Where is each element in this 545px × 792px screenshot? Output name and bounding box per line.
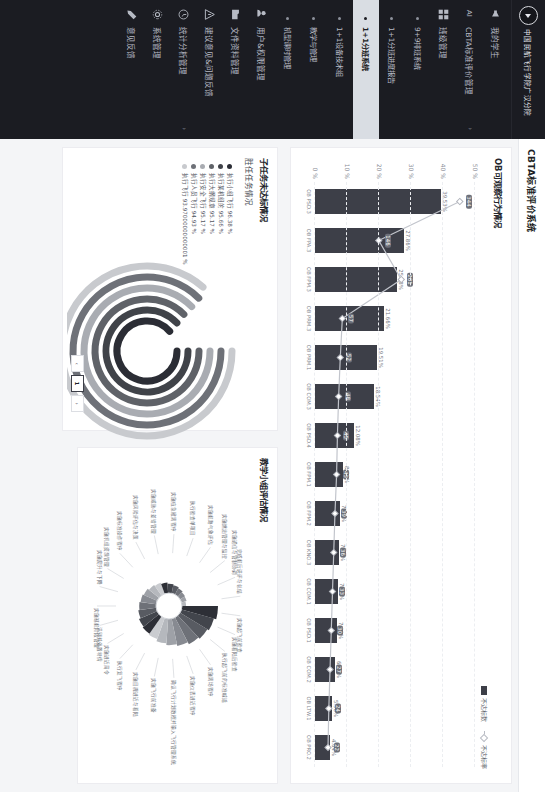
line-point-label: 57 <box>348 313 354 324</box>
rose-label: 实施进近简令 <box>104 645 110 675</box>
plane-circle-icon <box>519 6 538 25</box>
bullet-icon <box>391 17 394 20</box>
current-page[interactable]: 1 <box>71 375 84 392</box>
rose-leader-line <box>154 536 158 555</box>
sidebar-item-opinion-feedback[interactable]: 意见反馈 <box>119 0 145 139</box>
lower-row: 子任务未达标情况 胜任任务情况 执行小组飞行 96.38 %执行某机组的 95.… <box>56 139 284 792</box>
gridline <box>474 182 475 767</box>
rose-leader-line <box>218 627 235 635</box>
rose-leader-line <box>120 553 133 567</box>
prev-page-button[interactable]: ‹ <box>71 355 84 372</box>
grid-icon <box>439 9 450 20</box>
bullet-icon <box>313 17 316 20</box>
rose-label: 实施仪表进近程序 <box>190 676 196 716</box>
rose-label: 实施飞行前准备 <box>151 678 157 713</box>
sidebar-item-label: 我的学生 <box>491 27 502 59</box>
sidebar-item-class-management[interactable]: 班级管理 <box>431 0 457 139</box>
sidebar-item-aircraft-hours[interactable]: 机型课时管理 <box>275 0 301 139</box>
rose-leader-line <box>173 659 174 678</box>
rose-leader-line <box>200 547 211 563</box>
rose-leader-line <box>154 658 158 677</box>
panel-ob-behaviour: OB可观察行为情况 不达标数 不达标率 0 %10 %20 %30 %40 %5… <box>290 147 512 784</box>
rose-label: 实施威胁与差错管理 <box>151 456 157 534</box>
bullet-icon <box>287 17 290 20</box>
panel-heading: 教学小组评估情况 <box>259 458 271 775</box>
rose-leader-line <box>187 656 193 674</box>
legend-item-bar[interactable]: 不达标数 <box>480 686 489 722</box>
sidebar-item-9plus9-scheduling[interactable]: 9+9排班系统 <box>405 0 431 139</box>
sidebar-item-statistics-analysis[interactable]: 统计分析管理 › <box>171 0 197 139</box>
rose-label: 执行检查单项目 <box>190 456 196 536</box>
x-tick-label: OB PRO.2 <box>295 728 315 767</box>
sidebar-item-system-management[interactable]: 系统管理 <box>145 0 171 139</box>
y-tick: 50 % <box>472 164 479 179</box>
rose-leader-line <box>107 634 123 644</box>
rose-leader-line <box>222 613 241 616</box>
sidebar-item-label: 文件资料管理 <box>231 27 242 75</box>
rose-label: 执行起飞前的标准喊话 <box>222 653 228 703</box>
sidebar-item-label: 1+1分班进度报告 <box>387 27 397 84</box>
rose-label: 实施风险评估与决策 <box>133 456 139 540</box>
rose-leader-line <box>100 620 118 625</box>
legend-swatch-line <box>484 731 485 742</box>
sidebar-item-1plus1-progress-report[interactable]: 1+1分班进度报告 <box>379 0 405 139</box>
rose-leader-line <box>222 596 241 599</box>
rose-leader-line <box>100 587 118 592</box>
rose-leader-line <box>200 649 211 665</box>
chart-legend[interactable]: 不达标数 不达标率 <box>480 686 489 769</box>
brand-title: 中国民航飞行学院广汉分院 <box>524 29 534 117</box>
task-competency-chart: 执行小组飞行 96.38 %执行某机组的 95.66 %执行大纲规章 95.17… <box>67 156 242 422</box>
rose-label: 实施应急撤离程序 <box>171 456 177 532</box>
legend-item-line[interactable]: 不达标率 <box>480 731 489 769</box>
rose-label: 实施着陆后检查 <box>232 637 238 672</box>
line-point-label: 344 <box>466 194 472 208</box>
concentric-arcs <box>67 156 242 456</box>
sidebar-item-cbta-standard-eval[interactable]: AI CBTA标准评价管理 › <box>457 0 483 139</box>
rose-leader-line <box>120 645 133 659</box>
sidebar-item-my-students[interactable]: 我的学生 <box>483 0 509 139</box>
pagination[interactable]: ‹ 1 › <box>71 355 84 412</box>
line-point-label: 22 <box>334 742 340 753</box>
sidebar-item-feedback-issues[interactable]: 建议意见&问题反馈 <box>197 0 223 139</box>
sidebar-item-1plus1-system[interactable]: 1+1分班系统 <box>353 0 379 139</box>
right-column: 教学小组评估情况 实施起飞前检查实施着陆后检查执行起飞前的标准喊话实施离场程序实… <box>56 439 284 792</box>
panel-teaching-group: 教学小组评估情况 实施起飞前检查实施着陆后检查执行起飞前的标准喊话实施离场程序实… <box>77 447 278 784</box>
chevron-right-icon: › <box>466 127 474 130</box>
arc-segment[interactable] <box>95 299 199 403</box>
gridline <box>378 182 379 767</box>
legend-swatch-bar <box>482 686 488 695</box>
rose-label: 实施巡航阶段管理 <box>94 608 100 648</box>
y-tick: 10 % <box>344 164 351 179</box>
sidebar-item-user-permission[interactable]: 用户&权限管理 <box>249 0 275 139</box>
line-point-label: 24 <box>335 703 341 714</box>
rose-label: 实施目视进近与着陆 <box>133 672 139 717</box>
rose-label: 实施航路气象评估 <box>208 456 214 545</box>
chevron-right-icon: › <box>180 127 188 130</box>
rose-label: 实施机组资源管理 <box>104 456 110 567</box>
pen-icon <box>127 9 138 20</box>
sidebar-item-1plus1-equipment-tech[interactable]: 1+1设备技术组 <box>327 0 353 139</box>
sidebar-item-label: 教学与管理 <box>309 27 319 62</box>
panel-subheading: 胜任任务情况 <box>244 158 255 422</box>
x-tick-label: OB FPM.2 <box>295 494 315 533</box>
arc-segment[interactable] <box>117 321 177 381</box>
next-page-button[interactable]: › <box>71 395 84 412</box>
sidebar-item-label: 意见反馈 <box>127 27 138 59</box>
line-point-label: 52 <box>346 352 352 363</box>
page-title: CBTA标准评价系统 <box>526 149 539 233</box>
x-tick-label: OB COM.3 <box>295 377 315 416</box>
app-root: 中国民航飞行学院广汉分院 我的学生 AI CBTA标准评价管理 › 班级管理 <box>0 0 545 792</box>
rose-leader-line <box>136 653 145 670</box>
sidebar-item-label: 用户&权限管理 <box>257 27 268 81</box>
sidebar-item-label: 机型课时管理 <box>283 27 293 69</box>
teaching-group-rose-chart: 实施起飞前检查实施着陆后检查执行起飞前的标准喊话实施离场程序实施仪表进近程序确认… <box>82 456 257 775</box>
megaphone-icon <box>491 9 502 20</box>
rose-label: 实施起飞前检查 <box>237 618 243 653</box>
sidebar-item-file-management[interactable]: 文件资料管理 <box>223 0 249 139</box>
x-tick-label: OB LTW.1 <box>295 689 315 728</box>
clock-icon <box>179 9 190 20</box>
bullet-icon <box>417 17 420 20</box>
x-tick-label: OB FPM.3 <box>295 260 315 299</box>
sidebar-item-teaching-management[interactable]: 教学与管理 <box>301 0 327 139</box>
gridline <box>314 182 315 767</box>
